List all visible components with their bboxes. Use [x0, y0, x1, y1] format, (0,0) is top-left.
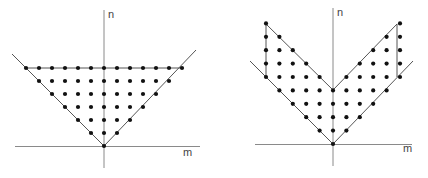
lattice-point	[358, 102, 362, 106]
lattice-point	[128, 66, 132, 70]
lattice-point	[318, 75, 322, 79]
lattice-point	[63, 92, 67, 96]
lattice-point	[331, 88, 335, 92]
lattice-point	[141, 66, 145, 70]
lattice-point	[89, 79, 93, 83]
lattice-point	[89, 105, 93, 109]
lattice-diagrams: nmnm	[0, 0, 428, 178]
lattice-point	[331, 129, 335, 133]
lattice-point	[398, 35, 402, 39]
lattice-point	[141, 92, 145, 96]
lattice-point	[331, 115, 335, 119]
lattice-point	[167, 66, 171, 70]
n-axis-label: n	[108, 8, 114, 20]
lattice-point	[385, 62, 389, 66]
lattice-point	[277, 35, 281, 39]
lattice-point	[371, 88, 375, 92]
lattice-point	[318, 88, 322, 92]
lattice-point	[102, 131, 106, 135]
lattice-point	[344, 102, 348, 106]
lattice-point	[128, 118, 132, 122]
lattice-point	[371, 75, 375, 79]
boundary-line	[266, 24, 333, 90]
lattice-point	[24, 66, 28, 70]
lattice-point	[318, 129, 322, 133]
lattice-point	[115, 79, 119, 83]
lattice-point	[50, 66, 54, 70]
diagram-left: nm	[12, 8, 200, 168]
lattice-point	[102, 144, 106, 148]
lattice-point	[264, 75, 268, 79]
lattice-point	[318, 115, 322, 119]
lattice-point	[89, 92, 93, 96]
lattice-point	[154, 92, 158, 96]
lattice-point	[344, 75, 348, 79]
lattice-point	[115, 118, 119, 122]
lattice-point	[304, 102, 308, 106]
lattice-point	[291, 48, 295, 52]
lattice-point	[264, 48, 268, 52]
lattice-point	[63, 79, 67, 83]
lattice-point	[154, 79, 158, 83]
lattice-point	[63, 105, 67, 109]
lattice-point	[304, 62, 308, 66]
lattice-point	[358, 88, 362, 92]
lattice-point	[89, 66, 93, 70]
lattice-point	[277, 62, 281, 66]
lattice-point	[76, 92, 80, 96]
lattice-point	[277, 48, 281, 52]
m-axis-label: m	[403, 142, 412, 154]
lattice-point	[128, 79, 132, 83]
diagram-right: nm	[250, 6, 413, 166]
lattice-point	[264, 35, 268, 39]
n-axis-label: n	[337, 6, 343, 18]
lattice-point	[128, 92, 132, 96]
lattice-point	[331, 142, 335, 146]
m-axis-label: m	[183, 146, 192, 158]
lattice-point	[277, 75, 281, 79]
lattice-point	[50, 79, 54, 83]
lattice-point	[50, 92, 54, 96]
lattice-point	[371, 102, 375, 106]
lattice-point	[76, 79, 80, 83]
lattice-point	[398, 48, 402, 52]
lattice-point	[141, 105, 145, 109]
lattice-point	[141, 79, 145, 83]
lattice-point	[398, 21, 402, 25]
lattice-point	[344, 129, 348, 133]
lattice-point	[331, 102, 335, 106]
lattice-point	[180, 66, 184, 70]
diagram-canvas: nmnm	[0, 0, 428, 178]
lattice-point	[89, 118, 93, 122]
lattice-point	[344, 115, 348, 119]
lattice-point	[102, 79, 106, 83]
lattice-point	[115, 131, 119, 135]
lattice-point	[37, 79, 41, 83]
lattice-point	[128, 105, 132, 109]
lattice-point	[102, 105, 106, 109]
lattice-point	[37, 66, 41, 70]
lattice-point	[264, 21, 268, 25]
lattice-point	[76, 66, 80, 70]
lattice-point	[277, 88, 281, 92]
lattice-point	[385, 48, 389, 52]
lattice-point	[102, 92, 106, 96]
lattice-point	[291, 75, 295, 79]
lattice-point	[385, 88, 389, 92]
lattice-point	[115, 66, 119, 70]
lattice-point	[63, 66, 67, 70]
lattice-point	[115, 105, 119, 109]
lattice-point	[89, 131, 93, 135]
lattice-point	[358, 115, 362, 119]
lattice-point	[371, 48, 375, 52]
lattice-point	[291, 102, 295, 106]
lattice-point	[398, 62, 402, 66]
lattice-point	[291, 62, 295, 66]
lattice-point	[371, 62, 375, 66]
lattice-point	[318, 102, 322, 106]
lattice-point	[115, 92, 119, 96]
lattice-point	[102, 118, 106, 122]
boundary-line	[333, 24, 397, 90]
lattice-point	[358, 75, 362, 79]
lattice-point	[167, 79, 171, 83]
